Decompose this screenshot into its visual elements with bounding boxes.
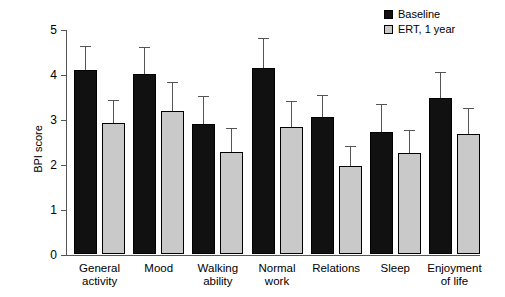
error-bar-cap (80, 46, 91, 47)
bar-with-error (220, 29, 243, 254)
x-axis-label-line: Enjoyment (408, 262, 500, 275)
x-axis-line (66, 255, 480, 256)
bar-baseline (429, 98, 452, 254)
error-bar-line (468, 109, 469, 134)
bar-with-error (192, 29, 215, 254)
error-bar-line (322, 96, 323, 117)
error-bar-line (263, 39, 264, 68)
bar-with-error (133, 29, 156, 254)
bar-group (252, 29, 303, 254)
bar-with-error (370, 29, 393, 254)
bar-chart-figure: Baseline ERT, 1 year BPI score 012345 Ge… (0, 0, 505, 297)
y-axis-tick: 3 (61, 120, 66, 121)
y-axis-tick-label: 0 (50, 249, 57, 261)
y-axis-tick: 1 (61, 210, 66, 211)
error-bar-cap (317, 95, 328, 96)
bar-with-error (280, 29, 303, 254)
bar-ert (280, 127, 303, 254)
bar-with-error (252, 29, 275, 254)
y-axis-tick-label: 2 (50, 159, 57, 171)
bar-group (74, 29, 125, 254)
bar-ert (398, 153, 421, 254)
error-bar-cap (167, 82, 178, 83)
bar-ert (339, 166, 362, 254)
error-bar-line (203, 97, 204, 123)
error-bar-cap (435, 72, 446, 73)
bar-group (192, 29, 243, 254)
plot-area: 012345 GeneralactivityMoodWalkingability… (66, 30, 480, 255)
error-bar-cap (108, 100, 119, 101)
y-axis-tick: 0 (61, 255, 66, 256)
y-axis-tick: 5 (61, 30, 66, 31)
bar-group (133, 29, 184, 254)
error-bar-line (440, 73, 441, 98)
bar-with-error (311, 29, 334, 254)
bar-ert (457, 134, 480, 254)
y-axis-tick-label: 3 (50, 114, 57, 126)
x-axis-label-line: activity (54, 275, 146, 288)
error-bar-cap (286, 101, 297, 102)
error-bar-line (113, 101, 114, 123)
error-bar-cap (404, 130, 415, 131)
error-bar-cap (463, 108, 474, 109)
error-bar-line (144, 48, 145, 74)
error-bar-line (85, 47, 86, 70)
error-bar-line (409, 131, 410, 153)
bar-baseline (311, 117, 334, 254)
error-bar-cap (226, 128, 237, 129)
bar-ert (102, 123, 125, 254)
error-bar-line (291, 102, 292, 127)
error-bar-cap (376, 104, 387, 105)
bar-group (370, 29, 421, 254)
x-axis-label-line: of life (408, 275, 500, 288)
y-axis-tick-label: 5 (50, 24, 57, 36)
bar-baseline (370, 132, 393, 254)
y-axis-line (66, 30, 67, 256)
error-bar-line (350, 147, 351, 166)
bar-with-error (74, 29, 97, 254)
bar-ert (161, 111, 184, 254)
bar-with-error (161, 29, 184, 254)
error-bar-cap (139, 47, 150, 48)
y-axis-title: BPI score (32, 125, 44, 173)
y-axis-tick: 2 (61, 165, 66, 166)
legend-label-baseline: Baseline (398, 9, 440, 20)
error-bar-line (231, 129, 232, 152)
y-axis-tick: 4 (61, 75, 66, 76)
legend-item-baseline: Baseline (384, 8, 455, 20)
x-axis-label: Enjoymentof life (408, 262, 500, 288)
legend-swatch-baseline-icon (384, 10, 393, 19)
error-bar-cap (345, 146, 356, 147)
bar-with-error (102, 29, 125, 254)
bar-ert (220, 152, 243, 254)
error-bar-line (381, 105, 382, 132)
bar-group (429, 29, 480, 254)
error-bar-cap (198, 96, 209, 97)
error-bar-cap (258, 38, 269, 39)
bar-baseline (133, 74, 156, 254)
y-axis-tick-label: 1 (50, 204, 57, 216)
y-axis-tick-label: 4 (50, 69, 57, 81)
error-bar-line (172, 83, 173, 110)
bar-with-error (339, 29, 362, 254)
bar-group (311, 29, 362, 254)
bar-with-error (429, 29, 452, 254)
bar-baseline (74, 70, 97, 255)
bar-baseline (192, 124, 215, 255)
bar-baseline (252, 68, 275, 254)
bar-with-error (398, 29, 421, 254)
x-axis-label-line: work (231, 275, 323, 288)
bar-with-error (457, 29, 480, 254)
